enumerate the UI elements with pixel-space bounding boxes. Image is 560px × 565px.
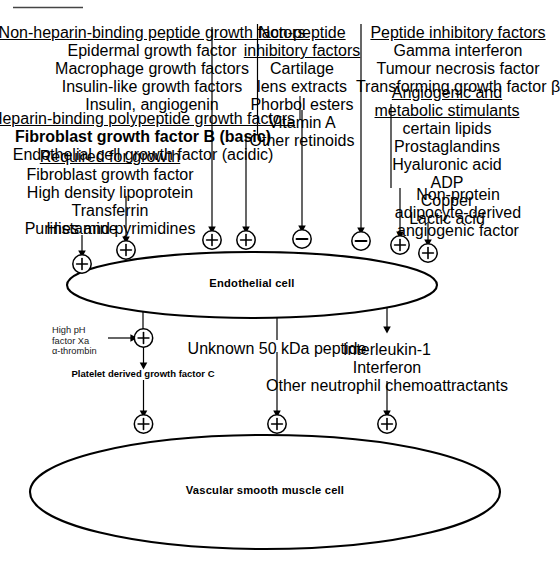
group-item: Prostaglandins xyxy=(375,138,520,156)
pdgf-activators: High pH factor Xa α-thrombin xyxy=(52,325,97,357)
output-line: Interleukin-1 xyxy=(266,341,508,359)
group-adipocyte-derived: Non-protein adipocyte-derived angiogenic… xyxy=(395,186,521,240)
group-header-line2: inhibitory factors xyxy=(244,42,361,60)
activator-line: factor Xa xyxy=(52,336,97,347)
group-item: lens extracts xyxy=(244,78,361,96)
group-header: Required for growth xyxy=(25,148,196,166)
output-line: Other neutrophil chemoattractants xyxy=(266,377,508,395)
group-histamine: Histamine xyxy=(46,220,117,238)
group-item: Hyaluronic acid xyxy=(375,156,520,174)
group-item: Fibroblast growth factor xyxy=(25,166,196,184)
group-header-line2: metabolic stimulants xyxy=(375,102,520,120)
group-item: Tumour necrosis factor xyxy=(356,60,560,78)
group-item: certain lipids xyxy=(375,120,520,138)
group-item: Vitamin A xyxy=(244,114,361,132)
neutrophil-chemoattractants: Interleukin-1 Interferon Other neutrophi… xyxy=(266,341,508,395)
group-item: adipocyte-derived xyxy=(395,204,521,222)
activator-line: α-thrombin xyxy=(52,346,97,357)
group-item: Cartilage xyxy=(244,60,361,78)
group-header-line1: Angiogenic and xyxy=(375,84,520,102)
endothelial-cell-label: Endothelial cell xyxy=(209,277,294,289)
group-item: Histamine xyxy=(46,220,117,238)
group-item: Gamma interferon xyxy=(356,42,560,60)
activator-line: High pH xyxy=(52,325,97,336)
smooth-muscle-cell-label: Vascular smooth muscle cell xyxy=(186,484,344,496)
group-non-peptide-inhibitory: Non-peptide inhibitory factors Cartilage… xyxy=(244,24,361,150)
output-line: Interferon xyxy=(266,359,508,377)
group-header: Peptide inhibitory factors xyxy=(356,24,560,42)
group-item: Other retinoids xyxy=(244,132,361,150)
group-item: Non-protein xyxy=(395,186,521,204)
group-item: Transferrin xyxy=(25,202,196,220)
group-header-line1: Non-peptide xyxy=(244,24,361,42)
group-item: angiogenic factor xyxy=(395,222,521,240)
group-item: High density lipoprotein xyxy=(25,184,196,202)
group-item: Phorbol esters xyxy=(244,96,361,114)
pdgf-c-label: Platelet derived growth factor C xyxy=(71,368,214,379)
